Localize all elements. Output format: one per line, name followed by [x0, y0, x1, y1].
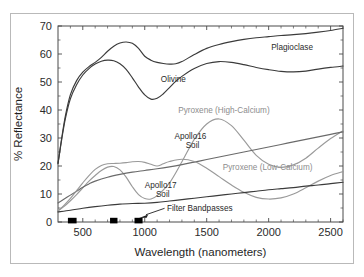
- label-pyroxene-high-calcium: Pyroxene (High-Calcium): [178, 106, 270, 115]
- x-tick-label: 1500: [194, 226, 218, 238]
- x-axis-title: Wavelength (nanometers): [135, 246, 267, 258]
- label-filter-bandpasses: Filter Bandpasses: [167, 204, 233, 213]
- y-tick-label: 10: [40, 188, 52, 200]
- y-tick-label: 60: [40, 48, 52, 60]
- filter-bandpass-bar: [68, 218, 77, 224]
- curves-group: [58, 28, 343, 212]
- y-tick-label: 70: [40, 20, 52, 32]
- plot-frame: [58, 26, 343, 222]
- label-apollo17-soil-line2: Soil: [156, 190, 170, 199]
- filter-bandpass-leader-line: [146, 208, 165, 214]
- filter-bandpass-bar: [135, 218, 143, 224]
- filter-bandpass-bar: [110, 218, 117, 224]
- y-axis-title: % Reflectance: [12, 87, 24, 161]
- label-olivine: Olivine: [161, 75, 186, 84]
- label-apollo17-soil: Apollo17: [145, 181, 177, 190]
- figure-container: 0102030405060705001000150020002500Wavele…: [0, 0, 364, 277]
- y-tick-label: 40: [40, 104, 52, 116]
- label-pyroxene-low-calcium: Pyroxene (Low-Calcium): [223, 163, 313, 172]
- y-tick-label: 50: [40, 76, 52, 88]
- reflectance-spectra-chart: 0102030405060705001000150020002500Wavele…: [0, 0, 364, 277]
- label-apollo16-soil: Apollo16: [174, 132, 206, 141]
- label-apollo16-soil-line2: Soil: [186, 141, 200, 150]
- y-tick-label: 0: [46, 216, 52, 228]
- filter-bandpass-arrow-icon: [139, 214, 148, 218]
- series-labels-group: PlagioclaseOlivinePyroxene (High-Calcium…: [145, 43, 314, 213]
- y-tick-label: 30: [40, 132, 52, 144]
- y-tick-label: 20: [40, 160, 52, 172]
- x-tick-label: 2500: [318, 226, 342, 238]
- x-tick-label: 1000: [132, 226, 156, 238]
- x-tick-label: 2000: [256, 226, 280, 238]
- x-tick-label: 500: [74, 226, 92, 238]
- label-plagioclase: Plagioclase: [271, 43, 313, 52]
